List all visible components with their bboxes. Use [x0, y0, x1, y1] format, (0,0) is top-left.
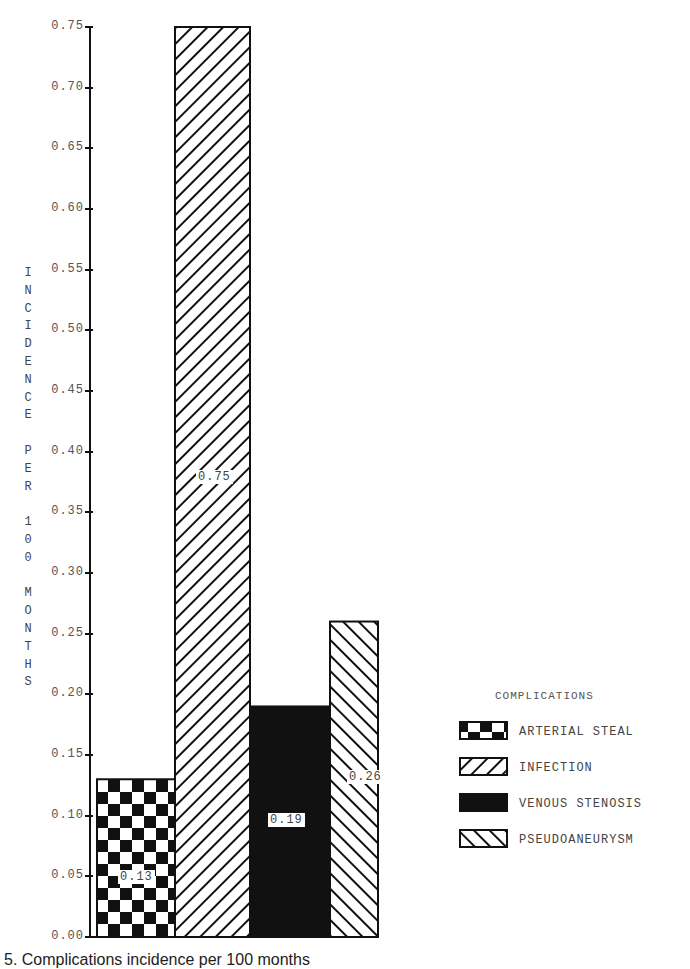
legend-item-arterial-steal: ARTERIAL STEAL	[519, 725, 634, 739]
legend-swatch-infection	[460, 758, 507, 775]
figure-caption: 5. Complications incidence per 100 month…	[4, 951, 310, 969]
legend-swatch-pseudoaneurysm	[460, 830, 507, 847]
legend-swatch-arterial-steal	[460, 722, 507, 739]
legend-item-venous-stenosis: VENOUS STENOSIS	[519, 797, 642, 811]
legend-item-pseudoaneurysm: PSEUDOANEURYSM	[519, 833, 634, 847]
legend-item-infection: INFECTION	[519, 761, 593, 775]
legend-swatch-venous-stenosis	[460, 794, 507, 811]
